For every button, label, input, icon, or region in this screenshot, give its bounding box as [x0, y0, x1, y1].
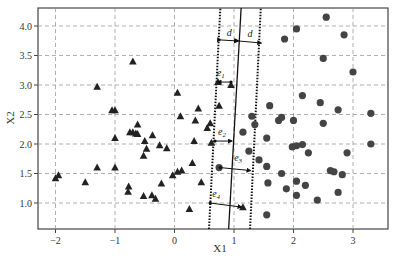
circle-marker — [293, 192, 300, 199]
circle-marker — [320, 55, 327, 62]
circle-marker — [299, 92, 306, 99]
circle-marker — [290, 117, 297, 124]
circle-marker — [251, 121, 258, 128]
circle-marker — [302, 182, 309, 189]
slack-arrow-start — [209, 201, 212, 204]
y-tick-label: 3.0 — [20, 80, 33, 91]
circle-marker — [283, 185, 290, 192]
y-tick-label: 3.5 — [20, 50, 33, 61]
circle-marker — [317, 99, 324, 106]
x-tick-label: −2 — [50, 235, 61, 246]
circle-marker — [323, 14, 330, 21]
circle-marker — [335, 189, 342, 196]
circle-marker — [263, 135, 270, 142]
circle-marker — [335, 106, 342, 113]
x-tick-label: 1 — [232, 235, 237, 246]
circle-marker — [330, 168, 337, 175]
circle-marker — [263, 163, 270, 170]
x-tick-label: −1 — [110, 235, 121, 246]
slack-arrow-start — [219, 166, 222, 169]
circle-marker — [320, 120, 327, 127]
circle-marker — [367, 140, 374, 147]
slack-arrow-start — [213, 139, 216, 142]
circle-marker — [340, 31, 347, 38]
x-tick-label: 2 — [291, 235, 296, 246]
circle-marker — [266, 102, 273, 109]
slack-arrow-start — [229, 80, 232, 83]
circle-marker — [278, 114, 285, 121]
circle-marker — [248, 113, 255, 120]
y-tick-label: 1.5 — [20, 168, 33, 179]
circle-marker — [239, 129, 246, 136]
y-tick-label: 4.0 — [20, 21, 33, 32]
x-axis-label: X1 — [213, 242, 226, 254]
circle-marker — [263, 211, 270, 218]
x-tick-label: 0 — [172, 235, 177, 246]
circle-marker — [281, 35, 288, 42]
circle-marker — [245, 147, 252, 154]
circle-marker — [293, 25, 300, 32]
svm-scatter-chart: −2−101231.01.52.02.53.03.54.0 dde1e2e3e4… — [0, 0, 393, 258]
y-tick-label: 2.0 — [20, 139, 33, 150]
circle-marker — [349, 68, 356, 75]
circle-marker — [339, 171, 346, 178]
circle-marker — [293, 178, 300, 185]
circle-marker — [278, 170, 285, 177]
circle-marker — [343, 149, 350, 156]
y-tick-label: 2.5 — [20, 109, 33, 120]
circle-marker — [299, 141, 306, 148]
circle-marker — [305, 149, 312, 156]
circle-marker — [264, 179, 271, 186]
y-tick-label: 1.0 — [20, 198, 33, 209]
x-tick-label: 3 — [351, 235, 356, 246]
circle-marker — [293, 142, 300, 149]
circle-marker — [367, 110, 374, 117]
circle-marker — [314, 196, 321, 203]
y-axis-label: X2 — [4, 111, 16, 124]
circle-marker — [255, 156, 262, 163]
